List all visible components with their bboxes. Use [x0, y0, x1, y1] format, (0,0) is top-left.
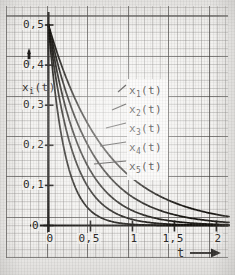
legend-item-1: x1(t)	[129, 85, 162, 99]
x-tick-label: 0,5	[77, 233, 100, 244]
legend-item-3: x3(t)	[129, 123, 162, 137]
x-tick-label: 2	[213, 233, 222, 244]
legend-item-5: x5(t)	[129, 161, 162, 175]
y-axis-title-suffix: (t)	[34, 81, 55, 94]
y-axis-title: xi(t)	[22, 82, 56, 96]
scanned-chart-figure: 0,50,40,30,20,10 00,511,52 xi(t) t x1(t)…	[0, 0, 235, 275]
x-tick-label: 1,5	[161, 233, 184, 244]
x-axis-arrow-icon	[211, 249, 221, 258]
legend-leader-line-4	[100, 142, 126, 146]
legend-item-suffix: (t)	[141, 122, 162, 135]
y-tick-label: 0,2	[22, 139, 45, 150]
legend-leader-line-2	[112, 104, 126, 110]
legend-item-4: x4(t)	[129, 142, 162, 156]
legend-item-suffix: (t)	[141, 160, 162, 173]
y-axis-arrow-icon	[27, 48, 31, 54]
legend-item-label: x	[129, 141, 136, 154]
x-tick-label: 0	[46, 233, 55, 244]
legend-item-2: x2(t)	[129, 104, 162, 118]
legend-item-suffix: (t)	[141, 103, 162, 116]
legend-item-label: x	[129, 84, 136, 97]
legend-leader-lines	[94, 85, 126, 164]
legend-leader-line-3	[106, 123, 126, 128]
x-tick-label: 1	[129, 233, 138, 244]
x-axis-title: t	[177, 247, 185, 259]
legend-item-suffix: (t)	[141, 141, 162, 154]
y-tick-label: 0,1	[22, 179, 45, 190]
legend-item-suffix: (t)	[141, 84, 162, 97]
legend-box: x1(t)x2(t)x3(t)x4(t)x5(t)	[127, 79, 168, 180]
y-tick-label: 0,5	[22, 19, 45, 30]
legend-item-label: x	[129, 160, 136, 173]
y-tick-label: 0,4	[22, 59, 45, 70]
legend-item-label: x	[129, 103, 136, 116]
legend-item-label: x	[129, 122, 136, 135]
legend-leader-line-1	[118, 85, 126, 92]
y-tick-label: 0,3	[22, 99, 45, 110]
y-tick-label: 0	[31, 220, 40, 231]
